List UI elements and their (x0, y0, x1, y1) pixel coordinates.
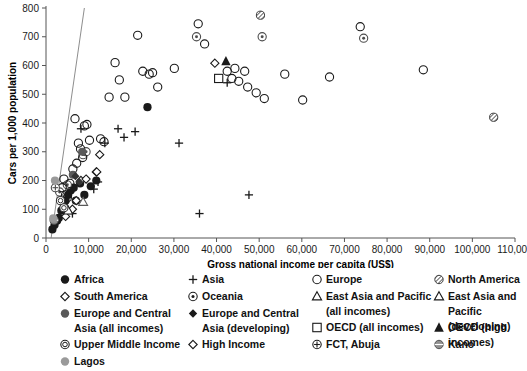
legend-item-label: Lagos (74, 354, 105, 369)
legend-item[interactable]: Europe and Central Asia (all incomes) (58, 306, 186, 337)
marker-filled-circle (143, 103, 151, 111)
marker-filled-circle (61, 275, 69, 283)
marker-filled-circle-gray (78, 148, 86, 156)
legend-item-label: North America (448, 272, 520, 287)
marker-open-circle (154, 83, 162, 91)
legend-item[interactable]: South America (58, 289, 186, 306)
marker-open-circle (201, 40, 209, 48)
marker-open-triangle (434, 292, 443, 300)
marker-open-circle (241, 67, 249, 75)
marker-open-diamond (61, 292, 69, 300)
marker-open-circle (231, 64, 239, 72)
x-tick-label: 0 (43, 244, 49, 255)
legend-item[interactable]: OECD (all incomes) (310, 320, 432, 337)
legend-item-label: Africa (74, 272, 104, 287)
y-tick-label: 200 (22, 175, 39, 186)
legend-item[interactable]: High Income (186, 337, 314, 354)
circle-hline-icon (432, 337, 448, 352)
open-triangle-icon (432, 289, 448, 304)
legend-column-1: AfricaSouth AmericaEurope and Central As… (58, 272, 186, 371)
legend-item[interactable]: FCT, Abuja (310, 337, 432, 354)
plot-svg: 0100200300400500600700800010,00020,00030… (0, 0, 527, 268)
legend-item[interactable]: OECD (high incomes) (432, 320, 527, 337)
series-europe (58, 20, 427, 202)
marker-hatched-circle (490, 113, 498, 121)
legend-item[interactable]: Asia (186, 272, 314, 289)
circle-bar-icon (310, 337, 326, 352)
legend-item[interactable]: Europe and Central Asia (developing) (186, 306, 314, 337)
marker-plus (114, 125, 122, 133)
marker-plus (120, 133, 128, 141)
marker-filled-triangle (434, 322, 444, 331)
legend-item[interactable]: Oceania (186, 289, 314, 306)
legend-item-label: Europe and Central Asia (developing) (202, 306, 299, 336)
marker-double-circle (61, 340, 69, 348)
marker-open-diamond-sm (93, 168, 101, 176)
series-oceania (56, 33, 368, 196)
x-tick-label: 70,000 (329, 244, 360, 255)
legend-item-label: Europe (326, 272, 362, 287)
legend-item-label: Europe and Central Asia (all incomes) (74, 306, 171, 336)
marker-plus (245, 191, 253, 199)
circle-dot-icon (186, 289, 202, 304)
marker-open-circle (170, 64, 178, 72)
open-diamond-sm-icon (186, 337, 202, 352)
marker-plus (131, 128, 139, 136)
y-tick-label: 800 (22, 3, 39, 14)
legend-item-label: High Income (202, 337, 265, 352)
chart-legend: AfricaSouth AmericaEurope and Central As… (0, 272, 527, 364)
series-high-income (93, 59, 219, 176)
marker-circle-dot (189, 292, 197, 300)
marker-open-circle (325, 73, 333, 81)
marker-open-diamond (96, 151, 104, 159)
x-tick-label: 30,000 (159, 244, 190, 255)
marker-circle-hline (435, 340, 443, 348)
marker-open-circle (313, 275, 321, 283)
filled-circle-icon (58, 272, 74, 287)
marker-open-triangle (312, 292, 321, 300)
x-tick-label: 50,000 (244, 244, 275, 255)
filled-circle-lt-icon (58, 354, 74, 369)
y-tick-label: 100 (22, 204, 39, 215)
y-tick-label: 600 (22, 60, 39, 71)
legend-item[interactable]: Upper Middle Income (58, 337, 186, 354)
marker-filled-circle-lt (61, 357, 69, 365)
plus-icon (186, 272, 202, 287)
marker-open-circle (105, 93, 113, 101)
open-diamond-icon (58, 289, 74, 304)
open-triangle-icon (310, 289, 326, 304)
legend-column-2: AsiaOceaniaEurope and Central Asia (deve… (186, 272, 314, 354)
marker-open-circle (134, 31, 142, 39)
marker-open-diamond-sm (211, 59, 219, 67)
y-axis-title: Cars per 1,000 population (7, 62, 18, 184)
series-oecd-high-incomes (221, 56, 230, 65)
x-tick-label: 10,000 (73, 244, 104, 255)
marker-circle-dot (258, 33, 266, 41)
legend-item[interactable]: Lagos (58, 354, 186, 371)
marker-open-circle (194, 20, 202, 28)
x-tick-label: 60,000 (287, 244, 318, 255)
marker-circle-dot (360, 34, 368, 42)
marker-open-square (215, 74, 223, 82)
x-tick-label: 20,000 (116, 244, 147, 255)
marker-plus (189, 275, 197, 283)
filled-circle-gray-icon (58, 306, 74, 321)
marker-open-square (313, 323, 321, 331)
legend-item[interactable]: Africa (58, 272, 186, 289)
legend-item[interactable]: North America (432, 272, 527, 289)
x-tick-label: 100,000 (454, 244, 491, 255)
marker-open-circle (83, 120, 91, 128)
legend-item-label: Upper Middle Income (74, 337, 180, 352)
legend-item[interactable]: East Asia and Pacific (all incomes) (310, 289, 432, 320)
marker-open-circle (356, 23, 364, 31)
marker-plus (195, 209, 203, 217)
series-fct-abuja (51, 184, 59, 192)
legend-item[interactable]: Europe (310, 272, 432, 289)
legend-item-label: Asia (202, 272, 224, 287)
marker-open-circle (85, 136, 93, 144)
legend-item-label: East Asia and Pacific (all incomes) (326, 289, 431, 319)
legend-item[interactable]: East Asia and Pacific (developing) (432, 289, 527, 320)
open-circle-icon (310, 272, 326, 287)
marker-open-circle (252, 89, 260, 97)
